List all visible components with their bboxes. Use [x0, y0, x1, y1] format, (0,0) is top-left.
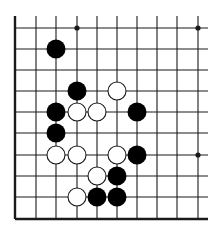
white-stone: [88, 167, 106, 185]
white-stone: [108, 146, 126, 164]
black-stone: [108, 167, 127, 186]
white-stone: [108, 82, 126, 100]
grid-lines: [15, 16, 208, 219]
star-point: [195, 25, 200, 30]
star-point: [195, 152, 200, 157]
star-point: [74, 25, 79, 30]
black-stone: [88, 188, 107, 207]
black-stone: [108, 188, 127, 207]
white-stone: [68, 188, 86, 206]
white-stone: [68, 146, 86, 164]
black-stone: [47, 40, 66, 59]
black-stone: [47, 103, 66, 122]
white-stone: [68, 103, 86, 121]
go-board: [0, 0, 223, 231]
black-stone: [128, 103, 147, 122]
white-stone: [88, 103, 106, 121]
black-stone: [128, 146, 147, 165]
black-stone: [68, 82, 87, 101]
black-stone: [47, 124, 66, 143]
white-stone: [47, 146, 65, 164]
